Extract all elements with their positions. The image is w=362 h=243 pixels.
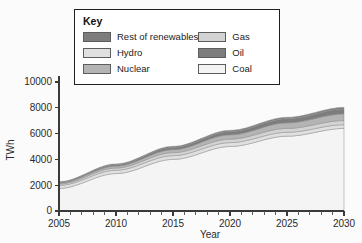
legend-item-nuclear: Nuclear [83, 62, 198, 75]
y-tick-label: 6000 [30, 128, 53, 139]
legend-label-hydro: Hydro [117, 47, 142, 58]
legend-swatch-gas [198, 32, 226, 42]
legend-swatch-coal [198, 64, 226, 74]
legend-item-coal: Coal [198, 62, 272, 75]
y-axis-title: TWh [5, 139, 16, 160]
y-tick-label: 8000 [30, 102, 53, 113]
legend-item-rest-of-renewables: Rest of renewables [83, 30, 198, 43]
y-tick-label: 0 [46, 205, 52, 216]
legend-title: Key [83, 15, 272, 27]
y-tick-label: 2000 [30, 180, 53, 191]
x-axis-title: Year [200, 229, 221, 240]
legend-swatch-hydro [83, 48, 111, 58]
x-tick-label: 2020 [219, 218, 242, 229]
legend-swatch-oil [198, 48, 226, 58]
legend-label-nuclear: Nuclear [117, 63, 150, 74]
legend-column-right: Gas Oil Coal [198, 30, 272, 75]
legend-columns: Rest of renewables Hydro Nuclear Gas [83, 30, 272, 75]
chart-page: 0200040006000800010000200520102015202020… [0, 0, 362, 243]
x-tick-label: 2010 [105, 218, 128, 229]
legend-label-oil: Oil [232, 47, 244, 58]
x-tick-label: 2030 [333, 218, 356, 229]
legend-swatch-rest-of-renewables [83, 32, 111, 42]
y-tick-label: 4000 [30, 154, 53, 165]
legend-label-gas: Gas [232, 31, 249, 42]
legend-swatch-nuclear [83, 64, 111, 74]
legend-item-oil: Oil [198, 46, 272, 59]
legend: Key Rest of renewables Hydro Nuclear [74, 9, 280, 85]
legend-column-left: Rest of renewables Hydro Nuclear [83, 30, 198, 75]
x-tick-label: 2005 [48, 218, 71, 229]
legend-label-rest-of-renewables: Rest of renewables [117, 31, 198, 42]
legend-item-hydro: Hydro [83, 46, 198, 59]
x-tick-label: 2025 [276, 218, 299, 229]
legend-label-coal: Coal [232, 63, 252, 74]
x-tick-label: 2015 [162, 218, 185, 229]
y-tick-label: 10000 [24, 76, 52, 87]
chart-bands [59, 107, 344, 211]
legend-item-gas: Gas [198, 30, 272, 43]
